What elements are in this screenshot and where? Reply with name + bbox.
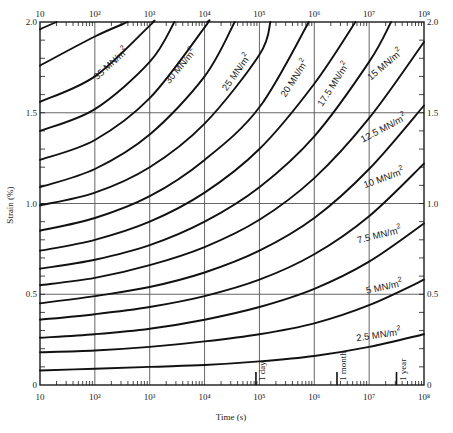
curve-label: 17.5 MN/m2 (313, 59, 351, 108)
creep-strain-chart: 1 day1 month1 year 35 MN/m230 MN/m225 MN… (0, 0, 453, 433)
y-tick-label-right: 1.5 (427, 108, 439, 118)
y-tick-label-right: 2.0 (427, 17, 439, 27)
strain-curve-35 (40, 21, 155, 102)
y-axis-title: Strain (%) (5, 186, 15, 223)
x-tick-label-bottom: 10⁷ (363, 392, 375, 402)
curve-label-superscript: 2 (393, 45, 401, 53)
y-tick-label-right: 0.5 (427, 289, 439, 299)
time-marker-label: 1 year (398, 359, 408, 381)
curve-label-text: 30 MN/m2 (161, 45, 198, 86)
curve-label-superscript: 2 (297, 56, 305, 63)
y-tick-label-left: 0.5 (26, 289, 38, 299)
strain-curve-27_5 (40, 22, 235, 187)
x-tick-label-bottom: 10² (89, 392, 101, 402)
x-tick-label-bottom: 10³ (144, 392, 156, 402)
y-tick-label-right: 0 (427, 380, 432, 390)
x-tick-label-top: 10⁴ (199, 9, 211, 19)
curve-label-superscript: 2 (240, 50, 248, 57)
x-tick-label-bottom: 10⁶ (308, 392, 320, 402)
x-tick-label-bottom: 10⁵ (253, 392, 265, 402)
curve-label: 2.5 MN/m2 (355, 324, 402, 343)
curve-label-text: 20 MN/m2 (276, 56, 310, 99)
curve-label-text: 35 MN/m2 (90, 44, 130, 82)
curve-label-superscript: 2 (397, 275, 402, 283)
y-tick-label-left: 1.0 (26, 199, 38, 209)
curve-label: 10 MN/m2 (361, 163, 405, 190)
curve-label-text: 15 MN/m2 (364, 45, 405, 82)
x-tick-label-top: 10⁶ (308, 9, 320, 19)
x-tick-label-top: 10⁵ (253, 9, 265, 19)
x-axis-title: Time (s) (216, 412, 246, 422)
curve-label-text: 17.5 MN/m2 (313, 59, 351, 108)
time-markers: 1 day1 month1 year (256, 351, 408, 385)
y-tick-label-left: 2.0 (26, 17, 38, 27)
curve-label-superscript: 2 (398, 163, 404, 171)
y-tick-label-right: 1.0 (427, 199, 439, 209)
x-tick-label-top: 10⁷ (363, 9, 375, 19)
time-marker-label: 1 month (338, 351, 348, 381)
x-tick-label-bottom: 10 (36, 392, 46, 402)
time-marker-label: 1 day (257, 361, 267, 381)
curve-label-text: 10 MN/m2 (361, 163, 405, 190)
curve-label-superscript: 2 (399, 109, 406, 117)
curve-labels: 35 MN/m230 MN/m225 MN/m220 MN/m217.5 MN/… (90, 44, 408, 344)
curve-label: 30 MN/m2 (161, 45, 198, 86)
x-tick-label-bottom: 10⁸ (418, 392, 430, 402)
curve-label: 20 MN/m2 (276, 56, 310, 99)
x-tick-label-bottom: 10⁴ (199, 392, 211, 402)
strain-curve-32_5 (40, 22, 174, 131)
strain-curve-20 (40, 22, 355, 251)
curve-label-text: 7.5 MN/m2 (355, 222, 402, 246)
strain-curve-30 (40, 20, 210, 160)
curve-label-superscript: 2 (338, 59, 346, 66)
y-tick-label-left: 0 (33, 380, 38, 390)
curve-label: 7.5 MN/m2 (355, 222, 402, 246)
curve-label: 15 MN/m2 (364, 45, 405, 82)
strain-curve-40 (40, 22, 57, 29)
x-tick-label-top: 10² (89, 9, 101, 19)
x-tick-label-top: 10³ (144, 9, 156, 19)
curve-label: 12.5 MN/m2 (358, 109, 409, 144)
curve-label-superscript: 2 (395, 222, 401, 230)
curve-label-text: 2.5 MN/m2 (355, 324, 402, 343)
curve-label-superscript: 2 (186, 45, 194, 53)
curve-label-text: 12.5 MN/m2 (358, 109, 409, 144)
curve-label-superscript: 2 (396, 324, 401, 331)
y-tick-label-left: 1.5 (26, 108, 38, 118)
strain-curve-22_5 (40, 22, 309, 231)
curve-label: 35 MN/m2 (90, 44, 130, 82)
